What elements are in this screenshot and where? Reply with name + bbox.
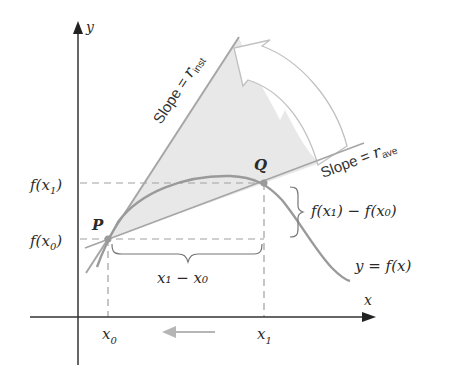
dy-label: f(x₁) − f(x₀) (310, 202, 397, 220)
curve-label: y = f(x) (354, 257, 411, 275)
dx-brace (112, 244, 262, 262)
fx0-tick-label: f(x0) (29, 232, 62, 252)
fx1-tick-label: f(x1) (29, 176, 62, 196)
y-axis-label: y (85, 19, 95, 35)
point-q-label: Q (254, 156, 267, 174)
dx-label: x₁ − x₀ (157, 269, 208, 287)
x0-tick-label: x0 (102, 325, 117, 346)
y-axis-arrow-icon (73, 21, 83, 34)
secant-tangent-diagram: y x P Q f(x1) f(x0) x0 x1 x₁ − x₀ f(x₁) … (0, 0, 450, 372)
x1-tick-label: x1 (257, 325, 272, 346)
point-q (261, 180, 268, 187)
x-axis-arrow-icon (362, 312, 376, 322)
point-p-label: P (91, 216, 104, 234)
x-axis-label: x (364, 292, 372, 308)
point-p (105, 236, 112, 243)
left-arrow-icon (162, 326, 215, 338)
